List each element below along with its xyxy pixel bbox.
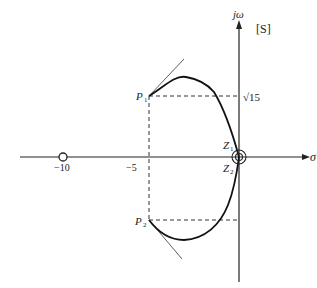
- svg-text:2: 2: [143, 221, 147, 229]
- tick-label-minus-5: −5: [126, 162, 137, 173]
- real-axis-label: σ: [310, 150, 317, 164]
- svg-text:Z: Z: [223, 162, 230, 174]
- svg-text:1: 1: [144, 96, 148, 104]
- imag-axis-arrow-icon: [236, 20, 242, 29]
- real-axis-arrow-icon: [302, 154, 310, 160]
- svg-text:1: 1: [230, 145, 234, 153]
- root-locus-diagram: jω [S] σ −10 −5 √15 P 1 P 2 Z 1 Z 2: [0, 0, 317, 288]
- svg-text:Z: Z: [223, 139, 230, 151]
- tick-label-sqrt15: √15: [243, 91, 261, 103]
- pole-label-p1: P 1: [135, 90, 148, 104]
- imag-axis-label: jω: [231, 8, 244, 20]
- zero-label-z2: Z 2: [223, 162, 234, 176]
- plane-label: [S]: [256, 22, 271, 36]
- svg-text:2: 2: [230, 168, 234, 176]
- tick-label-minus-10: −10: [54, 162, 70, 173]
- zero-marker-icon: [59, 153, 67, 161]
- svg-text:P: P: [134, 215, 142, 227]
- zero-label-z1: Z 1: [223, 139, 234, 153]
- pole-label-p2: P 2: [134, 215, 147, 229]
- svg-text:P: P: [135, 90, 143, 102]
